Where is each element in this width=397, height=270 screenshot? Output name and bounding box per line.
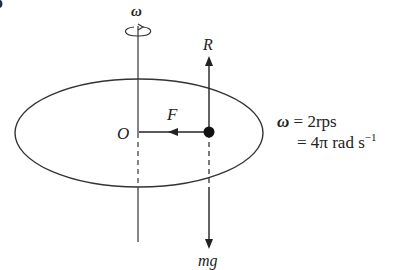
particle-dot	[204, 127, 215, 138]
centripetal-force-label: F	[167, 105, 177, 125]
axis-omega-label: ω	[131, 3, 142, 20]
normal-force-arrowhead-icon	[205, 56, 213, 66]
normal-force-label: R	[203, 36, 213, 54]
weight-arrowhead-icon	[205, 239, 213, 249]
centripetal-arrowhead-icon	[168, 128, 178, 136]
weight-label: mg	[198, 252, 218, 270]
omega-rad: = 4π rad s	[297, 133, 365, 152]
omega-symbol: ω	[277, 112, 289, 131]
omega-value-line2: = 4π rad s−1	[297, 131, 376, 153]
corner-mark: b	[0, 0, 3, 12]
turntable-ellipse	[15, 79, 263, 187]
center-label: O	[117, 124, 129, 144]
omega-rps: = 2rps	[289, 112, 336, 131]
omega-exponent: −1	[365, 131, 377, 143]
omega-value-line1: ω = 2rps	[277, 112, 337, 132]
